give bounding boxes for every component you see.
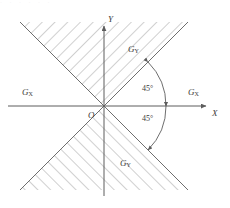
region-label-left: GX [22, 87, 33, 97]
degree-icon: ° [150, 84, 153, 93]
angle-label-upper: 45° [142, 84, 153, 93]
region-label-right-sub: X [195, 91, 199, 97]
angle-label-lower-value: 45 [142, 114, 150, 123]
y-axis-label: Y [108, 14, 113, 24]
region-label-right: GX [188, 87, 199, 97]
x-axis-label: X [212, 108, 218, 118]
angle-label-upper-value: 45 [142, 84, 150, 93]
region-label-bottom-sub: Y [127, 162, 131, 168]
coordinate-diagram [0, 0, 230, 208]
region-label-bottom: GY [120, 158, 131, 168]
region-label-top: GY [128, 44, 139, 54]
origin-label: O [88, 110, 95, 120]
angle-label-lower: 45° [142, 114, 153, 123]
degree-icon: ° [150, 114, 153, 123]
region-label-top-sub: Y [135, 48, 139, 54]
figure-root: · · · · · · [0, 0, 230, 208]
region-label-left-sub: X [29, 91, 33, 97]
angle-arc-lower [148, 106, 166, 150]
